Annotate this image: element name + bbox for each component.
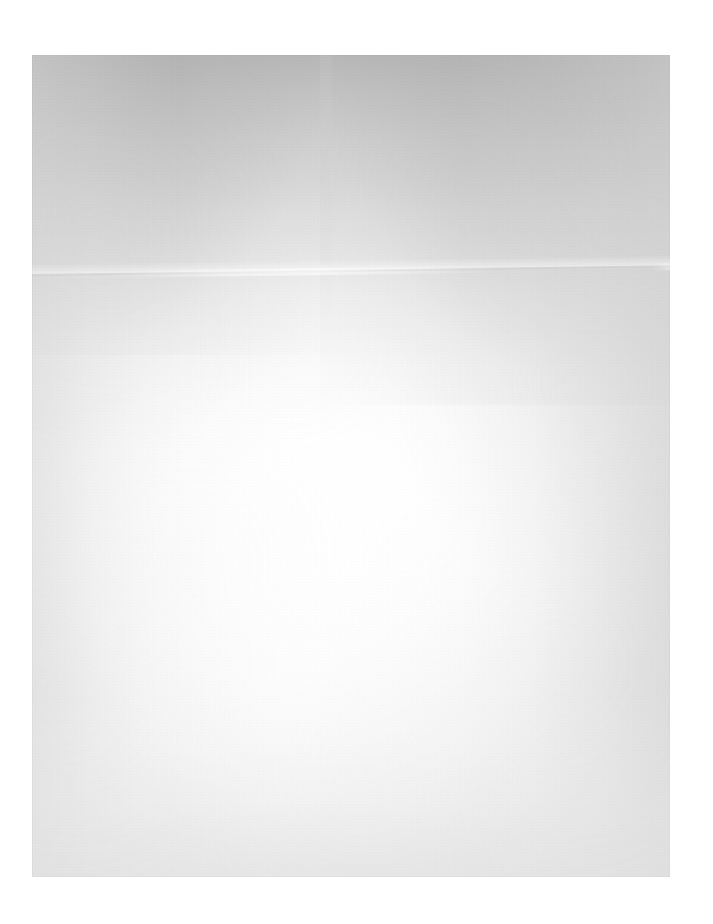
page-bottom-shadow: [32, 687, 670, 877]
page-left-shadow: [32, 55, 182, 877]
page-edge-outline: [32, 55, 670, 877]
paper-mottling-texture: [32, 55, 670, 877]
scanned-page: Blank scanned sheet of paper — no printe…: [32, 55, 670, 877]
fold-crease-line: [32, 265, 670, 277]
fold-crease-fade-mask: [32, 263, 670, 279]
page-corner-shadow-top-right: [320, 55, 670, 405]
page-top-shadow: [32, 55, 670, 415]
page-right-shadow: [460, 55, 670, 877]
paper-grain-texture: [32, 55, 670, 877]
page-corner-shadow-top-left: [32, 55, 332, 355]
scan-viewport: Blank scanned sheet of paper — no printe…: [0, 0, 713, 924]
fold-crease-highlight: [32, 255, 670, 274]
